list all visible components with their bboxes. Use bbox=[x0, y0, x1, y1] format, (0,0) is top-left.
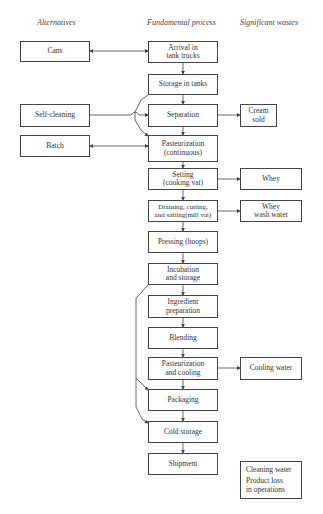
waste-whey-wash: Whey wash water bbox=[240, 200, 302, 222]
process-pressing: Pressing (hoops) bbox=[148, 231, 218, 253]
process-blending: Blending bbox=[148, 327, 218, 349]
process-arrival: Arrival in tank trucks bbox=[148, 41, 218, 63]
waste-general: Cleaning water Product loss in operation… bbox=[240, 461, 302, 499]
alt-self-cleaning: Self-cleaning bbox=[20, 104, 90, 127]
waste-cream: Cream sold bbox=[240, 104, 277, 127]
process-shipment: Shipment bbox=[148, 453, 218, 475]
process-packaging: Packaging bbox=[148, 389, 218, 411]
waste-whey: Whey bbox=[240, 168, 302, 190]
alt-batch: Batch bbox=[20, 135, 90, 157]
process-draining: Draining, cutting, and salting(mill vat) bbox=[148, 200, 218, 222]
waste-product-loss: Product loss in operations bbox=[246, 477, 285, 494]
waste-cleaning-water: Cleaning water bbox=[246, 466, 292, 475]
process-incubation: Incubation and storage bbox=[148, 263, 218, 285]
process-cold-storage: Cold storage bbox=[148, 421, 218, 443]
process-ingredient: Ingredient preparation bbox=[148, 295, 218, 318]
process-pasteurization-cooling: Pasteurization and cooling bbox=[148, 357, 218, 380]
alt-cans: Cans bbox=[20, 41, 90, 62]
process-setting: Setting (cooking vat) bbox=[148, 168, 218, 190]
waste-cooling-water: Cooling water bbox=[240, 357, 302, 380]
process-separation: Separation bbox=[148, 104, 218, 127]
process-pasteurization: Pasteurization (continuous) bbox=[148, 135, 218, 162]
process-storage: Storage in tanks bbox=[148, 74, 218, 95]
